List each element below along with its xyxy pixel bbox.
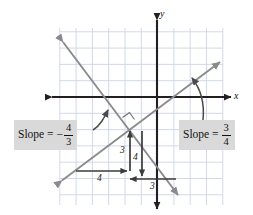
minus-sign: − (57, 129, 64, 141)
diagram-canvas (0, 0, 253, 215)
run-label-positive: 4 (97, 173, 102, 183)
fraction-numerator: 4 (64, 123, 73, 134)
fraction-denominator: 3 (64, 137, 73, 148)
fraction-denominator: 4 (222, 137, 231, 148)
fraction-numerator: 3 (222, 123, 231, 134)
slope-label-negative-text: Slope = (18, 129, 54, 141)
rise-label-positive: 3 (120, 145, 125, 155)
slope-label-positive-text: Slope = (183, 129, 219, 141)
fraction-positive: 3 4 (222, 123, 231, 147)
negative-slope-line (63, 42, 178, 195)
fraction-negative: 4 3 (64, 123, 73, 147)
axis-label-x: x (234, 90, 238, 101)
slope-label-negative: Slope = − 4 3 (14, 120, 77, 150)
slope-diagram-figure: y x Slope = − 4 3 Slope = 3 4 4 3 4 3 (0, 0, 253, 215)
axis-label-y: y (160, 8, 164, 19)
run-label-negative: 3 (150, 181, 155, 191)
slope-label-positive: Slope = 3 4 (179, 120, 235, 150)
rise-label-negative: 4 (133, 152, 138, 162)
